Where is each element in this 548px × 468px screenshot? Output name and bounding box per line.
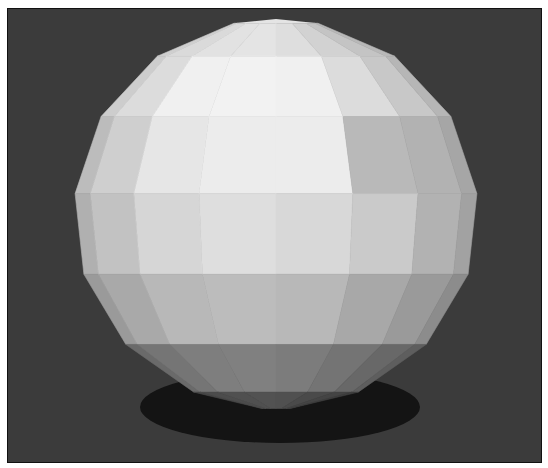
sphere-facet bbox=[199, 194, 276, 275]
sphere-facet bbox=[199, 117, 276, 194]
sphere-facet bbox=[90, 194, 140, 275]
sphere-facet bbox=[412, 194, 462, 275]
sphere-facet bbox=[350, 194, 419, 275]
render-frame bbox=[7, 8, 542, 463]
sphere-facet bbox=[276, 117, 353, 194]
sphere-render bbox=[8, 9, 541, 462]
sphere-facet bbox=[276, 194, 353, 275]
sphere-facet bbox=[134, 194, 203, 275]
